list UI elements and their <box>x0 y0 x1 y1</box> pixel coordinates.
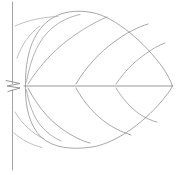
leaf-drawing <box>0 0 178 175</box>
image-canvas <box>0 0 178 175</box>
